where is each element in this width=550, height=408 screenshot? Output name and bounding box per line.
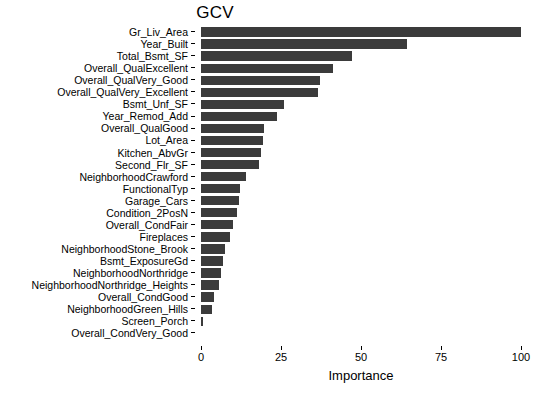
y-axis-tick-label: Bsmt_ExposureGd <box>0 255 188 267</box>
y-axis-tick-mark <box>191 332 195 333</box>
plot-area: Gr_Liv_AreaYear_BuiltTotal_Bsmt_SFOveral… <box>0 26 550 346</box>
y-axis-tick-label: Overall_QualVery_Good <box>0 74 188 86</box>
bar-row: NeighborhoodNorthridge <box>0 267 550 279</box>
y-axis-tick-mark <box>191 128 195 129</box>
bar-row: Year_Remod_Add <box>0 110 550 122</box>
bar <box>201 112 277 121</box>
bar <box>201 280 219 289</box>
bar <box>201 317 203 326</box>
y-axis-tick-mark <box>191 188 195 189</box>
y-axis-tick-label: Total_Bsmt_SF <box>0 50 188 62</box>
y-axis-tick-mark <box>191 116 195 117</box>
y-axis-tick-mark <box>191 212 195 213</box>
y-axis-tick-label: Bsmt_Unf_SF <box>0 98 188 110</box>
bar-row: Overall_CondGood <box>0 291 550 303</box>
y-axis-tick-label: Overall_CondVery_Good <box>0 327 188 339</box>
x-axis: Importance 0255075100 <box>0 346 550 408</box>
y-axis-tick-label: FunctionalTyp <box>0 183 188 195</box>
bar <box>201 76 320 85</box>
bar-row: Gr_Liv_Area <box>0 26 550 38</box>
gcv-importance-chart: GCV Gr_Liv_AreaYear_BuiltTotal_Bsmt_SFOv… <box>0 0 550 408</box>
bar <box>201 256 223 265</box>
y-axis-tick-mark <box>191 103 195 104</box>
bar <box>201 136 263 145</box>
y-axis-tick-label: Overall_QualVery_Excellent <box>0 86 188 98</box>
y-axis-tick-mark <box>191 31 195 32</box>
y-axis-tick-label: Year_Built <box>0 38 188 50</box>
y-axis-tick-label: Overall_QualExcellent <box>0 62 188 74</box>
x-axis-tick-label: 100 <box>512 351 530 363</box>
bar-row: FunctionalTyp <box>0 183 550 195</box>
bar-row: NeighborhoodNorthridge_Heights <box>0 279 550 291</box>
bar-row: Fireplaces <box>0 231 550 243</box>
bar <box>201 27 521 36</box>
bar-row: Lot_Area <box>0 134 550 146</box>
bar-row: Bsmt_ExposureGd <box>0 255 550 267</box>
bar <box>201 160 259 169</box>
bar <box>201 100 284 109</box>
y-axis-tick-mark <box>191 140 195 141</box>
chart-title: GCV <box>0 3 430 23</box>
y-axis-tick-label: Overall_CondGood <box>0 291 188 303</box>
y-axis-tick-label: Condition_2PosN <box>0 207 188 219</box>
bar-row: Overall_QualGood <box>0 122 550 134</box>
y-axis-tick-mark <box>191 164 195 165</box>
y-axis-tick-mark <box>191 308 195 309</box>
bar-row: Condition_2PosN <box>0 207 550 219</box>
y-axis-tick-label: Year_Remod_Add <box>0 110 188 122</box>
x-axis-title: Importance <box>201 368 521 383</box>
y-axis-tick-mark <box>191 320 195 321</box>
bar <box>201 184 240 193</box>
y-axis-tick-mark <box>191 236 195 237</box>
bar <box>201 232 230 241</box>
y-axis-tick-mark <box>191 67 195 68</box>
x-axis-tick-label: 0 <box>198 351 204 363</box>
y-axis-tick-label: Fireplaces <box>0 231 188 243</box>
y-axis-tick-label: Gr_Liv_Area <box>0 26 188 38</box>
bar-row: Year_Built <box>0 38 550 50</box>
bar <box>201 268 221 277</box>
x-axis-tick-mark <box>281 346 282 350</box>
bar-row: Bsmt_Unf_SF <box>0 98 550 110</box>
bar-row: Kitchen_AbvGr <box>0 147 550 159</box>
x-axis-tick-mark <box>521 346 522 350</box>
bar-row: Overall_CondFair <box>0 219 550 231</box>
bar <box>201 39 407 48</box>
bar-row: NeighborhoodStone_Brook <box>0 243 550 255</box>
x-axis-tick-label: 50 <box>355 351 367 363</box>
y-axis-tick-mark <box>191 284 195 285</box>
bar-row: NeighborhoodGreen_Hills <box>0 303 550 315</box>
y-axis-tick-mark <box>191 176 195 177</box>
bar-row: NeighborhoodCrawford <box>0 171 550 183</box>
y-axis-tick-mark <box>191 152 195 153</box>
bar <box>201 196 239 205</box>
x-axis-tick-mark <box>201 346 202 350</box>
bar <box>201 244 225 253</box>
y-axis-tick-label: Overall_CondFair <box>0 219 188 231</box>
y-axis-tick-mark <box>191 55 195 56</box>
y-axis-tick-mark <box>191 79 195 80</box>
bar <box>201 88 318 97</box>
y-axis-tick-mark <box>191 43 195 44</box>
y-axis-tick-mark <box>191 91 195 92</box>
y-axis-tick-label: NeighborhoodNorthridge <box>0 267 188 279</box>
x-axis-tick-label: 75 <box>435 351 447 363</box>
bar <box>201 220 233 229</box>
x-axis-tick-mark <box>361 346 362 350</box>
x-axis-tick-mark <box>441 346 442 350</box>
bar <box>201 148 261 157</box>
y-axis-tick-mark <box>191 248 195 249</box>
bar <box>201 172 246 181</box>
y-axis-tick-mark <box>191 272 195 273</box>
bar-row: Second_Flr_SF <box>0 159 550 171</box>
bar-row: Screen_Porch <box>0 315 550 327</box>
y-axis-tick-label: Overall_QualGood <box>0 122 188 134</box>
x-axis-tick-label: 25 <box>275 351 287 363</box>
bar-row: Overall_CondVery_Good <box>0 327 550 339</box>
y-axis-tick-label: NeighborhoodNorthridge_Heights <box>0 279 188 291</box>
y-axis-tick-label: Kitchen_AbvGr <box>0 147 188 159</box>
y-axis-tick-mark <box>191 200 195 201</box>
bar <box>201 208 237 217</box>
y-axis-tick-mark <box>191 260 195 261</box>
bar <box>201 305 212 314</box>
